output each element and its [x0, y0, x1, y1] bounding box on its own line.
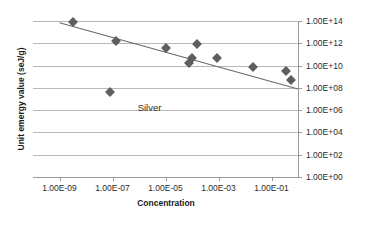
y-axis-tick [298, 132, 302, 133]
x-axis-tick-label: 1.00E-09 [42, 183, 77, 193]
y-axis-tick-label: 1.00E+04 [306, 127, 343, 137]
x-axis-tick [60, 177, 61, 181]
data-point-marker [161, 43, 171, 53]
chart-container: Silver 1.00E+141.00E+121.00E+101.00E+081… [0, 0, 374, 230]
y-axis-tick-label: 1.00E+12 [306, 38, 343, 48]
y-axis-tick-label: 1.00E+02 [306, 150, 343, 160]
y-axis-tick-label: 1.00E+08 [306, 83, 343, 93]
y-axis-tick [298, 66, 302, 67]
y-axis-tick-label: 1.00E+00 [306, 172, 343, 182]
x-axis-tick-label: 1.00E-05 [148, 183, 183, 193]
data-point-marker [111, 36, 121, 46]
data-point-marker [68, 17, 78, 27]
y-axis-tick-label: 1.00E+10 [306, 61, 343, 71]
x-axis-tick-label: 1.00E-03 [201, 183, 236, 193]
x-axis-tick-label: 1.00E-01 [254, 183, 289, 193]
series-annotation-label: Silver [138, 101, 162, 112]
data-point-marker [286, 75, 296, 85]
x-axis-tick [113, 177, 114, 181]
x-axis-tick [166, 177, 167, 181]
x-axis-tick [219, 177, 220, 181]
data-point-marker [105, 87, 115, 97]
y-axis-tick [298, 43, 302, 44]
y-axis-tick-label: 1.00E+14 [306, 16, 343, 26]
y-axis-tick [298, 88, 302, 89]
data-point-marker [212, 53, 222, 63]
x-axis-title: Concentration [33, 198, 299, 208]
y-axis-tick [298, 177, 302, 178]
x-axis-tick-label: 1.00E-07 [95, 183, 130, 193]
y-axis-tick [298, 155, 302, 156]
y-axis-tick [298, 21, 302, 22]
data-point-marker [192, 39, 202, 49]
x-axis-tick [272, 177, 273, 181]
data-point-marker [248, 62, 258, 72]
y-axis-title: Unit emergy value (seJ/g) [14, 21, 28, 177]
y-axis-tick-label: 1.00E+06 [306, 105, 343, 115]
y-axis-tick [298, 110, 302, 111]
